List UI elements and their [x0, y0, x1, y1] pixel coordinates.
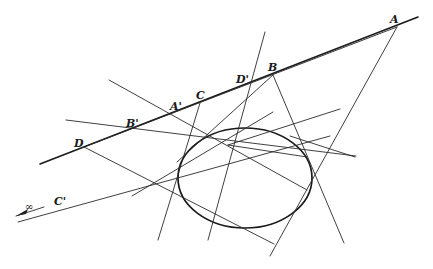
line-C-tangent [158, 103, 200, 240]
line-B-tangent [273, 75, 344, 243]
projective-conic-diagram: A B D' C A' B' D C' ∞ [0, 0, 433, 269]
line-P-to-conic-right [228, 145, 307, 157]
label-C: C [196, 89, 205, 102]
line-Aprime-diagonal [109, 80, 307, 190]
label-D: D [73, 137, 84, 150]
line-upper-right-polar [290, 136, 355, 157]
line-Bprime [66, 120, 356, 156]
label-A: A [389, 13, 399, 26]
label-D-prime: D' [235, 73, 249, 86]
line-B-to-P [177, 75, 273, 162]
label-B-prime: B' [125, 117, 139, 130]
label-infinity: ∞ [25, 201, 33, 212]
label-B: B [267, 61, 277, 74]
label-C-prime: C' [54, 195, 66, 208]
line-Cprime [18, 136, 330, 222]
line-P-right [228, 109, 340, 145]
line-A-tangent [270, 27, 397, 256]
line-Cprime-2 [132, 112, 273, 196]
label-A-prime: A' [169, 100, 182, 113]
